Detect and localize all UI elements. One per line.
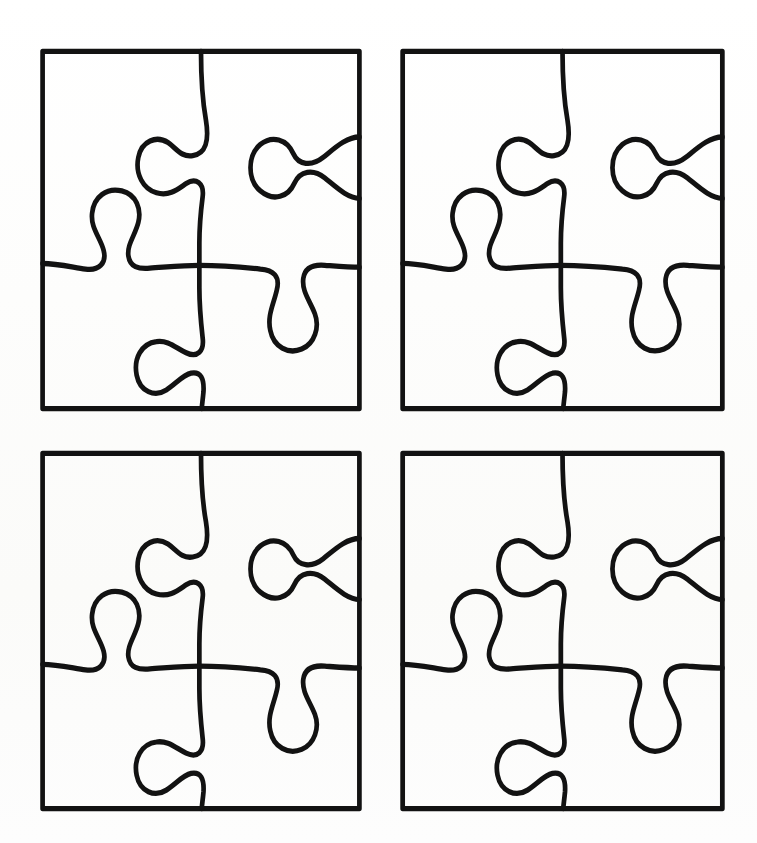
puzzle-vertical-divider-path xyxy=(497,51,569,408)
puzzle-outline-svg xyxy=(36,44,366,416)
puzzle-right-edge-notch-path xyxy=(612,137,722,198)
puzzle-bottom-right[interactable]: Puzzle 4 xyxy=(396,446,729,816)
puzzle-outline-svg xyxy=(396,446,729,816)
puzzle-vertical-divider-path xyxy=(497,453,569,808)
puzzle-label: Puzzle 1 xyxy=(36,416,37,417)
puzzle-top-left[interactable]: Puzzle 1 xyxy=(36,44,366,416)
puzzle-outline-svg xyxy=(396,44,729,416)
puzzle-right-edge-notch-path xyxy=(251,137,360,198)
puzzle-right-edge-notch-path xyxy=(251,539,360,600)
puzzle-label: Puzzle 4 xyxy=(396,816,397,817)
puzzle-label: Puzzle 2 xyxy=(396,416,397,417)
puzzle-top-right[interactable]: Puzzle 2 xyxy=(396,44,729,416)
puzzle-vertical-divider-path xyxy=(136,453,207,808)
page-sheet: Jigsaw Puzzle Template Sheet Four identi… xyxy=(0,0,757,843)
puzzle-right-edge-notch-path xyxy=(612,539,722,600)
puzzle-label: Puzzle 3 xyxy=(36,816,37,817)
puzzle-grid: Puzzle 1 Puzzle 2 xyxy=(0,0,757,843)
puzzle-bottom-left[interactable]: Puzzle 3 xyxy=(36,446,366,816)
puzzle-outline-svg xyxy=(36,446,366,816)
puzzle-vertical-divider-path xyxy=(136,51,207,408)
